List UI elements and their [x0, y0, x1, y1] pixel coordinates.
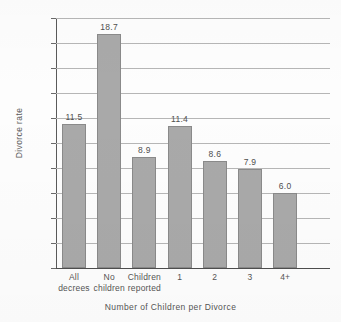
bar [203, 161, 227, 269]
bar-value-label: 6.0 [265, 181, 305, 191]
bar-value-label: 11.5 [54, 112, 94, 122]
bar-value-label: 11.4 [160, 114, 200, 124]
bar-value-label: 18.7 [89, 22, 129, 32]
y-tick-mark [51, 18, 56, 19]
bar [273, 193, 297, 268]
y-tick-mark [51, 118, 56, 119]
y-tick-mark [51, 43, 56, 44]
x-axis-baseline [56, 268, 330, 269]
plot-area: 11.518.78.911.48.67.96.0 [56, 18, 330, 268]
bar-value-label: 8.6 [195, 149, 235, 159]
bar-value-label: 8.9 [124, 145, 164, 155]
y-tick-mark [51, 168, 56, 169]
bar-value-label: 7.9 [230, 157, 270, 167]
y-tick-mark [51, 268, 56, 269]
x-tick-label-line: reported [115, 283, 173, 294]
bar [62, 124, 86, 268]
divorce-rate-bar-chart: Divorce rate 11.518.78.911.48.67.96.0 02… [0, 0, 341, 322]
y-tick-mark [51, 93, 56, 94]
y-axis-title: Divorce rate [14, 88, 24, 178]
bar [238, 169, 262, 268]
bar [132, 157, 156, 268]
gridline [56, 18, 330, 19]
y-tick-mark [51, 243, 56, 244]
x-axis-title: Number of Children per Divorce [0, 302, 341, 312]
x-tick-label-line: 4+ [256, 272, 314, 283]
x-tick-label: 4+ [256, 272, 314, 283]
y-tick-mark [51, 218, 56, 219]
bar [97, 34, 121, 268]
y-tick-mark [51, 193, 56, 194]
bar [168, 126, 192, 269]
y-tick-mark [51, 68, 56, 69]
y-tick-mark [51, 143, 56, 144]
